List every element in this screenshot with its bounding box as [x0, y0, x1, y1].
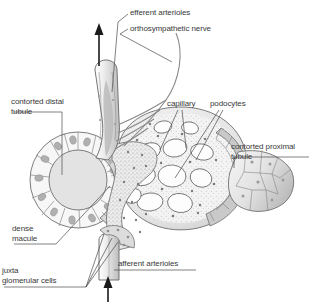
- renal-corpuscle-figure: efferent arterioles orthosympathetic ner…: [0, 0, 311, 304]
- label-contorted-distal-tubule: contorted distal tubule: [11, 97, 64, 117]
- label-juxta-glomerular-cells-line2: glomerular cells: [2, 276, 56, 286]
- label-contorted-proximal-tubule: contorted proximal tubule: [231, 142, 295, 162]
- label-podocytes: podocytes: [210, 99, 246, 109]
- label-dense-macule: dense macule: [12, 224, 37, 244]
- efferent-flow-arrow: [95, 23, 104, 66]
- label-afferent-arterioles: afferent arterioles: [118, 259, 178, 269]
- label-contorted-distal-tubule-line2: tubule: [11, 107, 64, 117]
- label-contorted-proximal-tubule-line2: tubule: [231, 152, 295, 162]
- label-capillary: capillary: [167, 99, 195, 109]
- label-contorted-distal-tubule-line1: contorted distal: [11, 97, 64, 106]
- label-orthosympathetic-nerve: orthosympathetic nerve: [130, 24, 211, 34]
- distal-tubule-lumen: [49, 150, 107, 210]
- label-efferent-arterioles: efferent arterioles: [130, 8, 190, 18]
- label-juxta-glomerular-cells: juxta glomerular cells: [2, 266, 56, 286]
- label-dense-macule-line2: macule: [12, 234, 37, 244]
- label-juxta-glomerular-cells-line1: juxta: [2, 266, 18, 275]
- label-dense-macule-line1: dense: [12, 224, 33, 233]
- label-contorted-proximal-tubule-line1: contorted proximal: [231, 142, 295, 151]
